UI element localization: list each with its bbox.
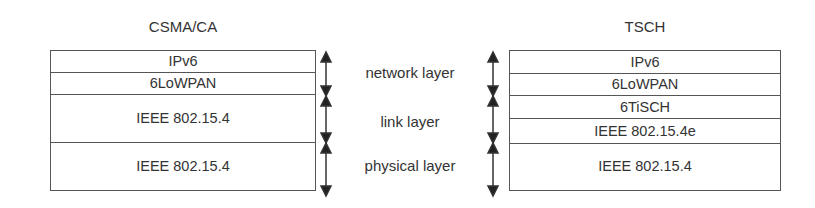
layer-arrows	[0, 0, 815, 208]
left-arrows	[321, 52, 331, 196]
right-arrows	[488, 52, 498, 196]
